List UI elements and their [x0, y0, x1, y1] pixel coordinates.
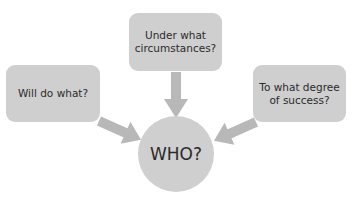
node-line: To what degree [259, 81, 339, 94]
center-who: WHO? [138, 116, 214, 192]
node-line: Under what [135, 29, 216, 42]
arrow-down-icon [164, 72, 188, 118]
node-will-do-what: Will do what? [6, 65, 100, 122]
node-circumstances: Under what circumstances? [129, 13, 222, 71]
node-line: Will do what? [18, 87, 88, 100]
node-line: circumstances? [135, 42, 216, 55]
node-line: of success? [259, 94, 339, 107]
node-degree-of-success: To what degree of success? [253, 65, 346, 122]
center-label: WHO? [150, 144, 202, 164]
